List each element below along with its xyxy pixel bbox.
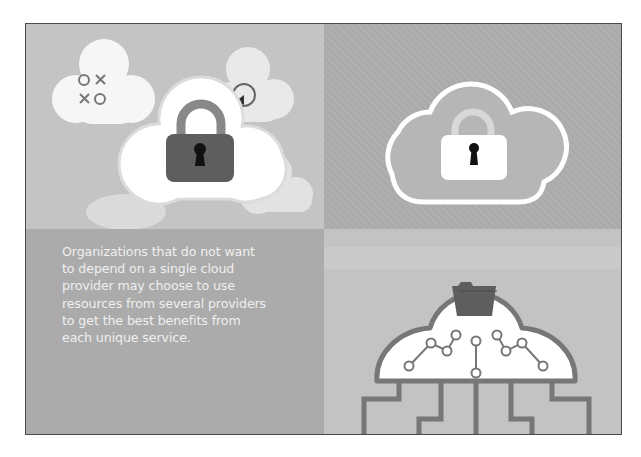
caption-line: each unique service. [62, 329, 322, 346]
circuit-icon [364, 379, 589, 435]
caption-text: Organizations that do not want to depend… [62, 243, 322, 346]
caption-line: resources from several providers [62, 295, 322, 312]
panel-lock-cloud [26, 24, 324, 229]
outlined-cloud-illustration [324, 24, 621, 229]
caption-line: provider may choose to use [62, 277, 322, 294]
panel-circuit-cloud [324, 229, 621, 435]
folder-icon [452, 282, 497, 316]
panel-caption: Organizations that do not want to depend… [26, 229, 324, 435]
caption-line: Organizations that do not want [62, 243, 322, 260]
cloud-cluster-illustration [26, 24, 324, 229]
panel-outlined-cloud [324, 24, 621, 229]
circuit-cloud-illustration [324, 229, 621, 435]
caption-line: to get the best benefits from [62, 312, 322, 329]
caption-line: to depend on a single cloud [62, 260, 322, 277]
illustration-frame: Organizations that do not want to depend… [25, 23, 622, 435]
